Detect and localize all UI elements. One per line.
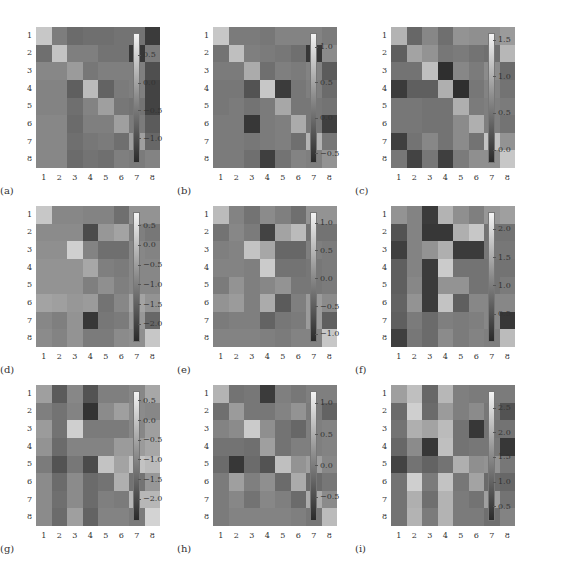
heatmap-cell — [438, 27, 454, 45]
heatmap-cell — [275, 491, 291, 509]
y-tick-label: 1 — [199, 390, 209, 398]
heatmap-cell — [407, 241, 423, 259]
y-tick-label: 8 — [22, 513, 32, 521]
heatmap-cell — [114, 420, 130, 438]
heatmap-cell — [114, 133, 130, 151]
colorbar-tick-label: 0.0 — [317, 462, 333, 470]
heatmap-cell — [453, 80, 469, 98]
colorbar-tick-label: −2.0 — [140, 320, 162, 328]
heatmap-cell — [391, 62, 407, 80]
y-tick-label: 1 — [22, 211, 32, 219]
heatmap-cell — [407, 420, 423, 438]
heatmap-cell — [260, 62, 276, 80]
x-tick-label: 3 — [70, 353, 80, 361]
y-tick-label: 2 — [199, 49, 209, 57]
heatmap-cell — [98, 259, 114, 277]
heatmap-cell — [36, 294, 52, 312]
heatmap-cell — [391, 508, 407, 526]
heatmap-cell — [52, 277, 68, 295]
heatmap-cell — [98, 98, 114, 116]
heatmap-cell — [453, 456, 469, 474]
x-tick-label: 4 — [262, 353, 272, 361]
y-tick-label: 3 — [22, 425, 32, 433]
heatmap-cell — [114, 241, 130, 259]
y-tick-label: 8 — [199, 334, 209, 342]
heatmap-cell — [52, 456, 68, 474]
heatmap-cell — [438, 150, 454, 168]
heatmap-cell — [291, 206, 307, 224]
heatmap-cell — [98, 420, 114, 438]
colorbar-tick-label: 0.5 — [317, 247, 333, 255]
heatmap-cell — [275, 150, 291, 168]
heatmap-cell — [213, 456, 229, 474]
heatmap-cell — [98, 241, 114, 259]
heatmap-cell — [260, 259, 276, 277]
heatmap-cell — [114, 27, 130, 45]
colorbar-tick-label: 0.5 — [140, 222, 156, 230]
heatmap-cell — [407, 80, 423, 98]
y-tick-label: 7 — [199, 138, 209, 146]
heatmap-cell — [422, 385, 438, 403]
heatmap-cell — [36, 115, 52, 133]
heatmap-cell — [244, 294, 260, 312]
heatmap-cell — [244, 150, 260, 168]
heatmap-cell — [52, 80, 68, 98]
heatmap-cell — [83, 150, 99, 168]
heatmap-cell — [500, 385, 516, 403]
heatmap-cell — [391, 206, 407, 224]
heatmap-cell — [52, 133, 68, 151]
heatmap-cell — [229, 98, 245, 116]
heatmap-cell — [244, 62, 260, 80]
heatmap-panel-g: 1234567812345678(g)0.50.0−0.5−1.0−1.5−2.… — [0, 385, 190, 571]
heatmap-cell — [407, 259, 423, 277]
heatmap-cell — [83, 224, 99, 242]
heatmap-cell — [67, 45, 83, 63]
y-tick-label: 5 — [377, 460, 387, 468]
heatmap-cell — [422, 206, 438, 224]
heatmap-cell — [67, 150, 83, 168]
y-tick-label: 7 — [377, 496, 387, 504]
heatmap-cell — [291, 508, 307, 526]
heatmap-cell — [229, 277, 245, 295]
heatmap-cell — [275, 80, 291, 98]
heatmap-cell — [83, 98, 99, 116]
heatmap-cell — [229, 403, 245, 421]
x-tick-label: 8 — [147, 353, 157, 361]
heatmap-cell — [114, 277, 130, 295]
x-tick-label: 6 — [293, 532, 303, 540]
y-tick-label: 4 — [377, 85, 387, 93]
heatmap-cell — [438, 438, 454, 456]
y-tick-label: 5 — [199, 281, 209, 289]
heatmap-cell — [229, 150, 245, 168]
colorbar-tick-label: −1.5 — [140, 476, 162, 484]
heatmap-cell — [98, 508, 114, 526]
heatmap-cell — [422, 27, 438, 45]
x-tick-label: 3 — [425, 353, 435, 361]
y-tick-label: 2 — [22, 228, 32, 236]
heatmap-cell — [83, 115, 99, 133]
heatmap-cell — [83, 329, 99, 347]
heatmap-cell — [98, 312, 114, 330]
x-tick-label: 5 — [456, 174, 466, 182]
heatmap-cell — [229, 241, 245, 259]
heatmap-cell — [291, 329, 307, 347]
y-tick-label: 3 — [199, 246, 209, 254]
heatmap-cell — [422, 115, 438, 133]
heatmap-cell — [422, 438, 438, 456]
y-tick-label: 4 — [22, 85, 32, 93]
heatmap-cell — [229, 420, 245, 438]
heatmap-cell — [453, 438, 469, 456]
heatmap-cell — [52, 438, 68, 456]
heatmap-cell — [36, 456, 52, 474]
heatmap-cell — [67, 206, 83, 224]
heatmap-cell — [469, 45, 485, 63]
heatmap-cell — [36, 150, 52, 168]
heatmap-cell — [391, 473, 407, 491]
colorbar — [310, 391, 317, 521]
x-tick-label: 8 — [147, 532, 157, 540]
heatmap-cell — [438, 115, 454, 133]
heatmap-cell — [114, 438, 130, 456]
heatmap-cell — [36, 508, 52, 526]
heatmap-cell — [422, 80, 438, 98]
heatmap-cell — [83, 277, 99, 295]
